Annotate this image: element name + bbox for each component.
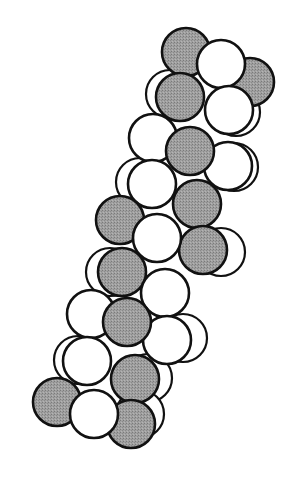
sphere-gray [156, 73, 204, 121]
helix-diagram [0, 0, 308, 481]
sphere-helix-model [0, 0, 308, 481]
sphere-white [197, 40, 245, 88]
sphere-white [205, 86, 253, 134]
sphere-white [63, 337, 111, 385]
sphere-gray [179, 226, 227, 274]
sphere-gray [166, 127, 214, 175]
sphere-gray [98, 248, 146, 296]
sphere-gray [111, 355, 159, 403]
sphere-gray [173, 180, 221, 228]
sphere-gray [103, 298, 151, 346]
sphere-white [70, 390, 118, 438]
